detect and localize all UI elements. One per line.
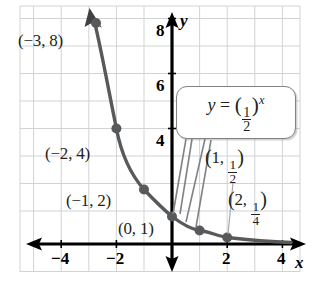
y-tick-label-4: 4 [156,132,165,149]
fraction-one-half: 12 [228,159,236,185]
equation-base-fraction: 12 [242,106,251,134]
y-axis-name: y [180,12,188,29]
point-label-neg1-2: (−1, 2) [66,192,111,209]
y-tick-label-6: 6 [156,77,165,94]
x-tick-label-4: 4 [277,250,286,267]
x-tick-label-2: 2 [222,250,231,267]
equation-callout-box: y = (12)x [176,86,296,139]
point-label-0-1: (0, 1) [118,220,154,237]
point-label-neg3-8: (−3, 8) [18,32,63,49]
equation-lhs: y [208,95,216,115]
equation-exponent: x [259,93,264,107]
equation-close-paren: ) [252,93,259,117]
y-tick-label-8: 8 [156,22,165,39]
x-tick-label-neg4: −4 [51,250,69,267]
fraction-one-quarter: 14 [251,201,259,227]
equation-text: y = (12)x [208,92,265,134]
x-axis-name: x [295,254,304,271]
coordinate-plane-figure: y = (12)x 8 6 4 −4 −2 2 4 x y (−3, 8) (−… [0,0,320,290]
point-label-neg2-4: (−2, 4) [45,145,90,162]
point-label-2-quarter: (2, 14) [228,188,267,227]
equation-operator: = [220,95,230,115]
y-axis [166,12,179,272]
x-tick-label-neg2: −2 [106,250,124,267]
point-label-1-half: (1, 12) [205,146,244,185]
equation-open-paren: ( [235,93,242,117]
